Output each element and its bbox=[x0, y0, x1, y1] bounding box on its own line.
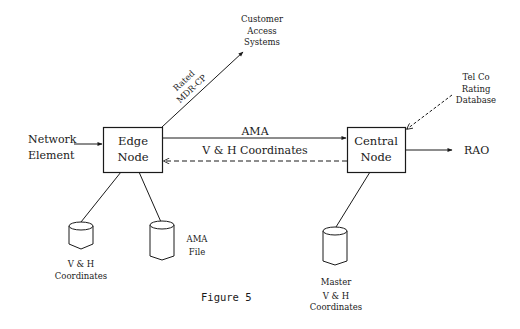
edge-node: Edge Node bbox=[117, 133, 148, 165]
telco-line-1: Tel Co bbox=[456, 72, 496, 84]
rating-db-dashed-arrow bbox=[407, 95, 452, 129]
vh-coordinates-db-icon bbox=[69, 222, 93, 249]
vh-coordinates-db-label: V & H Coordinates bbox=[55, 258, 107, 282]
telco-line-2: Rating bbox=[456, 84, 496, 96]
central-node-line-1: Central bbox=[354, 133, 398, 149]
edge-node-line-1: Edge bbox=[117, 133, 148, 149]
edge-node-line-2: Node bbox=[117, 149, 148, 165]
edge-to-ama-file-line bbox=[139, 172, 161, 222]
figure-caption: Figure 5 bbox=[201, 292, 252, 303]
master-db-line-1: Master bbox=[310, 277, 362, 288]
vh-coordinates-flow-label: V & H Coordinates bbox=[202, 143, 308, 158]
telco-line-3: Database bbox=[456, 95, 496, 107]
customer-access-line-2: Access bbox=[241, 26, 283, 38]
customer-access-line-3: Systems bbox=[241, 37, 283, 49]
vh-db-line-1: V & H bbox=[55, 258, 107, 270]
master-vh-db-label: Master V & H Coordinates bbox=[310, 277, 362, 313]
vh-db-line-2: Coordinates bbox=[55, 270, 107, 282]
telco-rating-database-label: Tel Co Rating Database bbox=[456, 72, 496, 107]
ama-file-db-icon bbox=[150, 221, 174, 260]
ama-file-line-2: File bbox=[187, 246, 208, 259]
network-element-line-2: Element bbox=[28, 148, 77, 164]
rao-label: RAO bbox=[464, 143, 489, 158]
ama-label: AMA bbox=[241, 124, 268, 139]
network-element-label: Network Element bbox=[28, 132, 77, 164]
central-to-master-db-line bbox=[336, 172, 370, 227]
master-db-line-2: V & H bbox=[310, 291, 362, 302]
network-element-line-1: Network bbox=[28, 132, 77, 148]
master-db-line-3: Coordinates bbox=[310, 302, 362, 313]
edge-to-vh-db-line bbox=[81, 172, 121, 222]
ama-file-db-label: AMA File bbox=[187, 233, 208, 259]
master-vh-db-icon bbox=[323, 227, 347, 265]
central-node-line-2: Node bbox=[354, 149, 398, 165]
ama-file-line-1: AMA bbox=[187, 233, 208, 246]
customer-access-line-1: Customer bbox=[241, 14, 283, 26]
customer-access-systems-label: Customer Access Systems bbox=[241, 14, 283, 49]
central-node: Central Node bbox=[354, 133, 398, 165]
